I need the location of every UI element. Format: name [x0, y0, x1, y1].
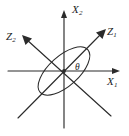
z1-axis-line	[18, 33, 102, 118]
x2-axis-label-subscript: 2	[79, 9, 83, 17]
figure-canvas	[0, 0, 129, 136]
rotation-angle-label: θ	[75, 63, 80, 73]
x2-axis-arrowhead	[61, 10, 67, 18]
x1-axis-arrowhead	[112, 68, 120, 74]
coordinate-rotation-figure: X2 X1 Z1 Z2 θ	[0, 0, 129, 136]
x1-axis-label-subscript: 1	[114, 81, 118, 89]
z2-axis-line	[26, 39, 111, 116]
z2-axis-group	[22, 35, 111, 116]
z1-axis-group	[18, 29, 106, 118]
z2-axis-label: Z2	[6, 31, 16, 42]
x2-axis-label: X2	[72, 4, 82, 15]
z1-axis-label: Z1	[107, 26, 117, 37]
x2-axis-label-name: X	[72, 3, 79, 15]
origin-point	[62, 69, 66, 73]
x1-axis-label-name: X	[107, 75, 114, 87]
z1-axis-label-subscript: 1	[113, 31, 117, 39]
x1-axis-label: X1	[107, 76, 117, 87]
z2-axis-label-subscript: 2	[12, 36, 16, 44]
